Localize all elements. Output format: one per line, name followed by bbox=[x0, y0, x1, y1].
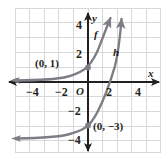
origin-label: O bbox=[76, 86, 84, 97]
y-tick-label-neg2: −2 bbox=[68, 105, 81, 117]
axis-lines bbox=[9, 13, 159, 151]
point-marker-h bbox=[85, 123, 91, 129]
point-label-h: (0, −3) bbox=[93, 121, 123, 132]
x-tick-label-neg2: −2 bbox=[55, 86, 68, 98]
graph-canvas bbox=[0, 0, 168, 159]
y-tick-label-neg4: −4 bbox=[68, 134, 81, 146]
point-marker-f bbox=[85, 65, 91, 71]
x-axis-label: x bbox=[148, 68, 154, 79]
x-tick-label-4: 4 bbox=[135, 86, 141, 98]
coordinate-graph-figure: −4 −2 2 4 4 2 −2 −4 O x y f h (0, 1) (0,… bbox=[0, 0, 168, 159]
curve-f-label: f bbox=[94, 29, 98, 40]
x-tick-label-neg4: −4 bbox=[26, 86, 39, 98]
point-label-f: (0, 1) bbox=[35, 58, 59, 69]
y-axis-label: y bbox=[92, 13, 97, 24]
x-tick-label-2: 2 bbox=[106, 86, 112, 98]
y-tick-label-2: 2 bbox=[76, 48, 82, 60]
curve-h-label: h bbox=[113, 47, 119, 58]
y-tick-label-4: 4 bbox=[76, 19, 82, 31]
